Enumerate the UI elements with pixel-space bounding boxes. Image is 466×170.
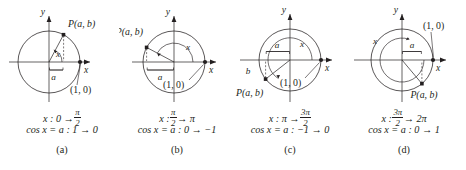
panel-c-y-axis-label: y: [281, 4, 287, 15]
panel-c-arc-label: x: [299, 39, 305, 49]
panel-b-brace-label: a: [158, 72, 163, 82]
panel-c-x-axis-label: x: [324, 62, 330, 73]
y-axis-arrowhead: [288, 14, 293, 20]
panel-a: y x P(a, b) (1, 0) x a x : 0 →π2 cos x =…: [4, 0, 120, 170]
point-unit: [78, 60, 82, 64]
panel-d-range-prefix: x :: [381, 113, 391, 124]
panel-d-label: (d): [346, 144, 462, 155]
panel-d-x-axis-label: x: [435, 62, 441, 73]
panel-d-y-axis-label: y: [393, 4, 399, 15]
panel-b-range-prefix: x :: [159, 113, 169, 124]
panel-b-label: (b): [119, 144, 235, 155]
point-P: [145, 46, 149, 50]
panel-a-range-prefix: x : 0 →: [43, 113, 74, 124]
unit-point-leader: [305, 63, 320, 79]
y-axis-arrowhead: [172, 16, 177, 22]
panel-c: y x P(a, b) (1, 0) x a b x : π →3π2 cos …: [232, 0, 348, 170]
panel-c-diagram: y x P(a, b) (1, 0) x a b: [232, 2, 348, 106]
panel-d-range-num: 3π: [392, 108, 403, 118]
panel-c-unit-point-label: (1, 0): [280, 77, 301, 89]
panel-a-unit-point-label: (1, 0): [70, 84, 91, 96]
panel-b-range-suffix: → π: [177, 113, 195, 124]
panel-a-range-num: π: [74, 108, 80, 118]
panel-b-arc-label: x: [185, 42, 191, 52]
panel-c-label: (c): [232, 144, 348, 155]
panel-c-range-num: 3π: [300, 108, 311, 118]
panel-b-cos-caption: cos x = a : 0 → −1: [119, 125, 235, 136]
terminal-ray: [147, 47, 174, 62]
panel-a-cos-caption: cos x = a : 1 → 0: [4, 125, 120, 136]
panel-b-range-num: π: [170, 108, 176, 118]
panel-a-arc-label: x: [55, 49, 61, 59]
abscissa-brace: [50, 68, 64, 71]
panel-d-brace-label: a: [410, 40, 415, 50]
panel-a-x-axis-label: x: [83, 64, 89, 75]
panel-c-point-label: P(a, b): [235, 87, 263, 99]
panel-b-unit-point-label: (1, 0): [163, 79, 184, 91]
unit-point-leader: [189, 65, 204, 81]
abscissa-brace: [266, 52, 289, 55]
panel-d-diagram: y x P(a, b) (1, 0) x a: [346, 2, 462, 106]
abscissa-brace: [147, 68, 173, 71]
panel-c-ordinate-label: b: [246, 66, 251, 76]
panel-c-range-prefix: x : π →: [269, 113, 300, 124]
panel-b-diagram: y x P(a, b) (1, 0) x a: [119, 2, 235, 106]
panel-b-point-label: P(a, b): [119, 26, 143, 38]
point-unit: [319, 58, 323, 62]
panel-b-y-axis-label: y: [165, 6, 171, 17]
panel-a-brace-label: a: [51, 72, 56, 82]
point-P: [420, 82, 424, 86]
panel-b: y x P(a, b) (1, 0) x a x :π2→ π cos x = …: [119, 0, 235, 170]
y-axis-arrowhead: [47, 16, 52, 22]
panel-c-cos-caption: cos x = a : −1 → 0: [232, 125, 348, 136]
panel-a-diagram: y x P(a, b) (1, 0) x a: [4, 2, 120, 106]
panel-a-label: (a): [4, 144, 120, 155]
x-axis-arrowhead: [440, 58, 446, 63]
panel-d-unit-point-label: (1, 0): [423, 20, 444, 32]
panel-b-x-axis-label: x: [208, 64, 214, 75]
terminal-ray: [402, 60, 422, 84]
panel-d-cos-caption: cos x = a : 0 → 1: [346, 125, 462, 136]
y-axis-arrowhead: [400, 14, 405, 20]
unit-circle-figure-set: y x P(a, b) (1, 0) x a x : 0 →π2 cos x =…: [0, 0, 466, 170]
panel-d-point-label: P(a, b): [409, 89, 437, 101]
panel-c-brace-label: a: [275, 40, 280, 50]
point-P: [264, 77, 268, 81]
point-P: [62, 33, 66, 37]
panel-a-point-label: P(a, b): [67, 18, 95, 30]
panel-a-y-axis-label: y: [40, 6, 46, 17]
panel-d: y x P(a, b) (1, 0) x a x :3π2→ 2π cos x …: [346, 0, 462, 170]
point-unit: [203, 60, 207, 64]
abscissa-brace: [403, 52, 422, 55]
point-unit: [431, 58, 435, 62]
panel-d-range-suffix: → 2π: [404, 113, 427, 124]
